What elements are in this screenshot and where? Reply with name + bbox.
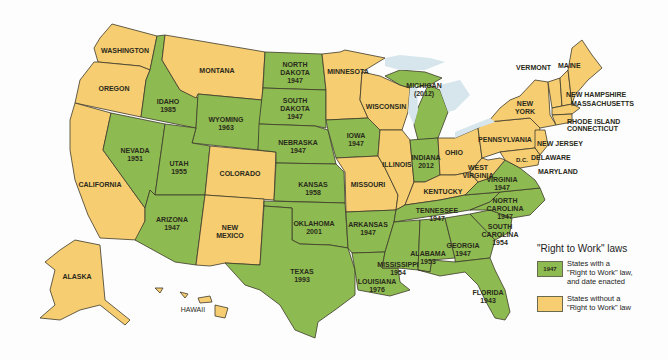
label-kentucky: KENTUCKY: [424, 188, 463, 196]
label-new-hampshire: NEW HAMPSHIRE: [566, 91, 626, 99]
label-missouri: MISSOURI: [351, 181, 386, 189]
legend-text-rtw: States with a "Right to Work" law, and d…: [567, 259, 633, 286]
label-texas: TEXAS 1993: [290, 268, 313, 284]
label-south-dakota: SOUTH DAKOTA 1947: [280, 97, 309, 121]
label-arizona: ARIZONA 1947: [156, 216, 188, 232]
label-ohio: OHIO: [445, 149, 463, 157]
label-washington: WASHINGTON: [101, 47, 149, 55]
label-maryland: MARYLAND: [538, 168, 578, 176]
label-tennessee: TENNESSEE 1947: [416, 207, 458, 223]
label-indiana: INDIANA 2012: [411, 154, 440, 170]
label-west-virginia: WEST VIRGINIA: [462, 164, 493, 180]
label-hawaii: HAWAII: [181, 306, 205, 314]
label-montana: MONTANA: [199, 67, 234, 75]
legend-swatch-no-rtw: [537, 296, 563, 312]
label-massachusetts: MASSACHUSETTS: [571, 100, 634, 108]
label-vermont: VERMONT: [516, 64, 551, 72]
label-michigan: MICHIGAN (2012): [406, 82, 441, 98]
lake-superior: [385, 55, 445, 70]
label-colorado: COLORADO: [220, 170, 261, 178]
label-arkansas: ARKANSAS 1947: [348, 221, 388, 237]
label-pennsylvania: PENNSYLVANIA: [478, 136, 532, 144]
label-kansas: KANSAS 1958: [298, 181, 328, 197]
label-minnesota: MINNESOTA: [327, 68, 368, 76]
legend-title: "Right to Work" laws: [537, 243, 667, 254]
label-north-dakota: NORTH DAKOTA 1947: [280, 61, 309, 85]
label-wisconsin: WISCONSIN: [366, 103, 406, 111]
label-new-mexico: NEW MEXICO: [216, 224, 244, 240]
label-nevada: NEVADA 1951: [120, 147, 149, 163]
label-oklahoma: OKLAHOMA 2001: [293, 220, 334, 236]
label-alaska: ALASKA: [62, 273, 91, 281]
label-alabama: ALABAMA 1953: [410, 250, 445, 266]
label-illinois: ILLINOIS: [382, 161, 412, 169]
label-delaware: DELAWARE: [531, 154, 571, 162]
legend-item-no-rtw: States without a "Right to Work" law: [537, 294, 667, 312]
label-maine: MAINE: [558, 62, 581, 70]
label-idaho: IDAHO 1985: [157, 98, 180, 114]
label-louisiana: LOUISIANA 1976: [358, 278, 397, 294]
legend-swatch-rtw: 1947: [537, 261, 563, 277]
label-oregon: OREGON: [98, 85, 129, 93]
label-wyoming: WYOMING 1963: [209, 116, 244, 132]
label-florida: FLORIDA 1943: [472, 289, 503, 305]
legend-item-rtw: 1947 States with a "Right to Work" law, …: [537, 259, 667, 286]
label-connecticut: CONNECTICUT: [567, 125, 618, 133]
legend-text-no-rtw: States without a "Right to Work" law: [567, 294, 631, 312]
label-new-jersey: NEW JERSEY: [537, 140, 583, 148]
label-iowa: IOWA 1947: [347, 132, 366, 148]
legend: "Right to Work" laws 1947 States with a …: [537, 243, 667, 320]
label-nebraska: NEBRASKA 1947: [278, 139, 318, 155]
label-utah: UTAH 1955: [170, 160, 189, 176]
label-dc: D.C.: [516, 156, 528, 164]
state-vermont: [548, 78, 562, 108]
label-georgia: GEORGIA 1947: [446, 242, 479, 258]
label-north-carolina: NORTH CAROLINA 1947: [487, 197, 524, 221]
label-new-york: NEW YORK: [515, 100, 535, 116]
label-south-carolina: SOUTH CAROLINA 1954: [482, 223, 519, 247]
state-alaska: [40, 240, 130, 325]
label-california: CALIFORNIA: [78, 181, 121, 189]
